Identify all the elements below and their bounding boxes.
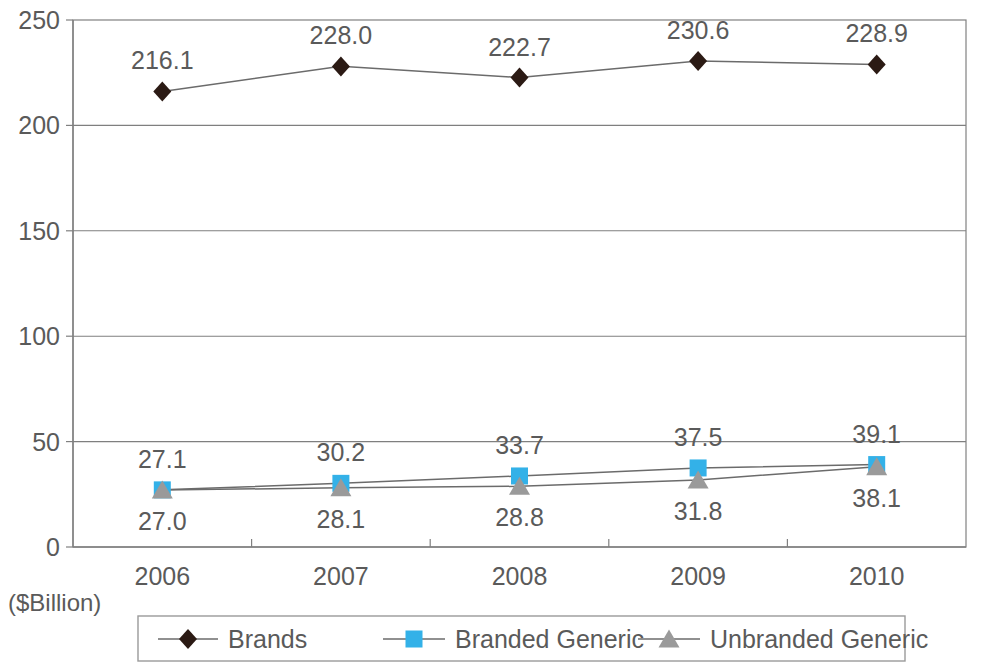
y-tick-label: 0 [46, 533, 60, 561]
value-label-brands-2006: 216.1 [131, 46, 194, 74]
y-axis-ticks: 050100150200250 [18, 6, 73, 561]
line-chart: 050100150200250 20062007200820092010 216… [0, 0, 984, 669]
value-label-unbranded-generic-2010: 38.1 [852, 484, 901, 512]
chart-legend: BrandsBranded GenericUnbranded Generic [138, 616, 928, 661]
marker-brands-2008 [511, 68, 529, 88]
x-tick-label-2007: 2007 [313, 562, 369, 590]
value-label-brands-2007: 228.0 [310, 21, 373, 49]
marker-brands-2007 [332, 56, 350, 76]
value-label-branded-generic-2009: 37.5 [674, 423, 723, 451]
value-label-branded-generic-2007: 30.2 [317, 438, 366, 466]
data-value-labels: 216.1228.0222.7230.6228.927.130.233.737.… [131, 16, 908, 535]
marker-brands-2006 [153, 81, 171, 101]
value-label-unbranded-generic-2008: 28.8 [495, 503, 544, 531]
x-tick-label-2006: 2006 [134, 562, 190, 590]
axis-unit-label: ($Billion) [8, 589, 101, 616]
chart-canvas: 050100150200250 20062007200820092010 216… [0, 0, 984, 669]
legend-items: BrandsBranded GenericUnbranded Generic [158, 625, 928, 653]
legend-label-unbranded-generic[interactable]: Unbranded Generic [710, 625, 928, 653]
y-tick-label: 250 [18, 6, 60, 34]
value-label-branded-generic-2010: 39.1 [852, 420, 901, 448]
value-label-branded-generic-2006: 27.1 [138, 445, 187, 473]
value-label-brands-2009: 230.6 [667, 16, 730, 44]
value-label-branded-generic-2008: 33.7 [495, 431, 544, 459]
y-tick-label: 100 [18, 322, 60, 350]
value-label-brands-2008: 222.7 [488, 33, 551, 61]
y-tick-label: 50 [32, 428, 60, 456]
y-tick-label: 200 [18, 111, 60, 139]
x-tick-label-2009: 2009 [670, 562, 726, 590]
value-label-brands-2010: 228.9 [845, 19, 908, 47]
value-label-unbranded-generic-2009: 31.8 [674, 497, 723, 525]
value-label-unbranded-generic-2006: 27.0 [138, 507, 187, 535]
legend-marker-square [406, 631, 423, 648]
x-tick-label-2008: 2008 [492, 562, 548, 590]
legend-label-brands[interactable]: Brands [228, 625, 307, 653]
legend-label-branded-generic[interactable]: Branded Generic [455, 625, 644, 653]
marker-brands-2010 [868, 54, 886, 74]
marker-brands-2009 [689, 51, 707, 71]
y-tick-label: 150 [18, 217, 60, 245]
grid-lines [73, 125, 966, 441]
value-label-unbranded-generic-2007: 28.1 [317, 505, 366, 533]
x-tick-label-2010: 2010 [849, 562, 905, 590]
